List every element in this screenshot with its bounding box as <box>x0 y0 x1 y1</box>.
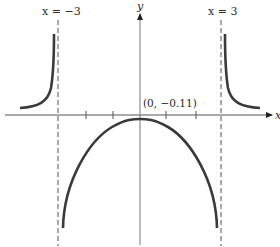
plot-area <box>0 0 280 247</box>
rational-function-graph: y x x = −3 x = 3 (0, −0.11) <box>0 0 280 247</box>
asymptote-left-label: x = −3 <box>42 6 81 17</box>
curve-left-branch <box>20 34 54 108</box>
asymptote-right-label: x = 3 <box>208 6 237 17</box>
y-axis-label: y <box>137 1 143 12</box>
intercept-label: (0, −0.11) <box>143 98 197 109</box>
curve-right-branch <box>225 34 260 108</box>
x-axis-label: x <box>275 110 280 121</box>
